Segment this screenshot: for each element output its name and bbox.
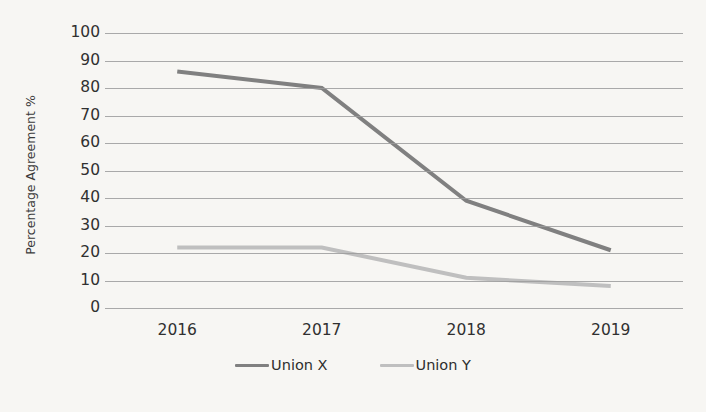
y-axis-tick-labels: 1009080706050403020100 [52, 33, 100, 308]
y-tick-label-60: 60 [52, 135, 100, 151]
y-tick-label-50: 50 [52, 163, 100, 179]
legend-item-union-y[interactable]: Union Y [380, 358, 471, 373]
gridline-0 [105, 308, 683, 309]
y-tick-label-40: 40 [52, 190, 100, 206]
x-tick-label-2016: 2016 [132, 320, 222, 340]
legend-swatch-icon [235, 364, 269, 367]
series-line-union-x [177, 72, 611, 251]
legend-swatch-icon [380, 364, 414, 367]
gridline-60 [105, 143, 683, 144]
gridline-50 [105, 171, 683, 172]
legend-item-union-x[interactable]: Union X [235, 358, 327, 373]
y-tick-label-30: 30 [52, 218, 100, 234]
y-axis-title: Percentage Agreement % [22, 60, 40, 290]
gridline-90 [105, 61, 683, 62]
gridline-30 [105, 226, 683, 227]
gridline-100 [105, 33, 683, 34]
legend-label: Union Y [416, 358, 471, 373]
chart-legend: Union XUnion Y [0, 358, 706, 373]
line-chart: Percentage Agreement % 10090807060504030… [0, 0, 706, 412]
plot-area [105, 33, 683, 308]
x-tick-label-2018: 2018 [421, 320, 511, 340]
gridline-80 [105, 88, 683, 89]
gridline-40 [105, 198, 683, 199]
gridline-20 [105, 253, 683, 254]
y-tick-label-20: 20 [52, 245, 100, 261]
gridline-10 [105, 281, 683, 282]
y-tick-label-0: 0 [52, 300, 100, 316]
x-axis-tick-labels: 2016201720182019 [105, 320, 683, 342]
y-tick-label-80: 80 [52, 80, 100, 96]
x-tick-label-2017: 2017 [277, 320, 367, 340]
y-tick-label-90: 90 [52, 53, 100, 69]
y-tick-label-70: 70 [52, 108, 100, 124]
y-tick-label-10: 10 [52, 273, 100, 289]
y-tick-label-100: 100 [52, 25, 100, 41]
gridline-70 [105, 116, 683, 117]
legend-label: Union X [271, 358, 327, 373]
x-tick-label-2019: 2019 [566, 320, 656, 340]
